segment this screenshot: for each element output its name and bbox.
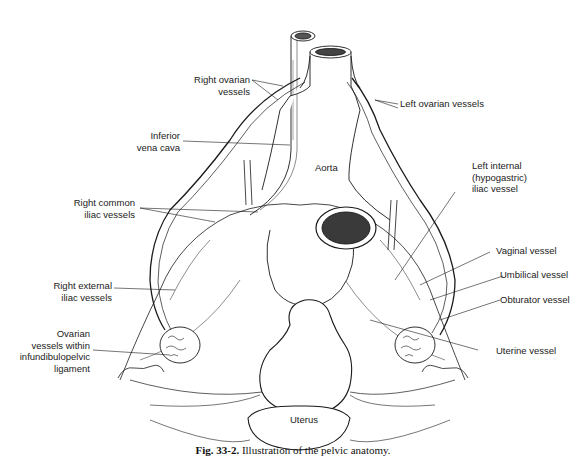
left-fimbria-drawing xyxy=(422,365,468,378)
right-ovary-drawing xyxy=(160,327,200,363)
label-uterine-vessel: Uterine vessel xyxy=(496,345,556,357)
label-line: Right ovarian xyxy=(190,74,250,86)
label-line: vena cava xyxy=(120,142,180,154)
label-line: Left internal xyxy=(472,160,527,172)
label-left-ovarian-vessels: Left ovarian vessels xyxy=(400,98,484,110)
label-line: Right common xyxy=(60,197,135,209)
label-line: Right external xyxy=(40,280,112,292)
aorta-drawing xyxy=(262,46,390,220)
label-obturator-vessel: Obturator vessel xyxy=(500,294,570,306)
label-line: (hypogastric) xyxy=(472,172,527,184)
figure-caption: Fig. 33-2. Illustration of the pelvic an… xyxy=(0,444,586,456)
label-line: iliac vessel xyxy=(472,183,527,195)
label-line: iliac vessels xyxy=(60,209,135,221)
pelvic-anatomy-illustration xyxy=(0,0,586,457)
label-line: iliac vessels xyxy=(40,292,112,304)
label-left-internal-iliac: Left internal (hypogastric) iliac vessel xyxy=(472,160,527,195)
label-line: vessels within xyxy=(10,340,90,352)
label-right-ovarian-vessels: Right ovarian vessels xyxy=(190,74,250,97)
rectum-drawing xyxy=(267,207,376,306)
label-line: vessels xyxy=(190,86,250,98)
label-inferior-vena-cava: Inferior vena cava xyxy=(120,130,180,153)
label-line: ligament xyxy=(10,363,90,375)
label-uterus: Uterus xyxy=(290,414,318,426)
label-line: Inferior xyxy=(120,130,180,142)
uterus-drawing xyxy=(260,300,352,414)
label-umbilical-vessel: Umbilical vessel xyxy=(500,269,568,281)
label-right-common-iliac: Right common iliac vessels xyxy=(60,197,135,220)
label-vaginal-vessel: Vaginal vessel xyxy=(496,245,557,257)
label-line: infundibulopelvic xyxy=(10,351,90,363)
label-aorta: Aorta xyxy=(315,162,338,174)
label-ovarian-vessels-ip-ligament: Ovarian vessels within infundibulopelvic… xyxy=(10,328,90,374)
caption-label: Fig. 33-2. xyxy=(195,444,239,456)
label-right-external-iliac: Right external iliac vessels xyxy=(40,280,112,303)
caption-text: Illustration of the pelvic anatomy. xyxy=(242,444,391,456)
label-line: Ovarian xyxy=(10,328,90,340)
